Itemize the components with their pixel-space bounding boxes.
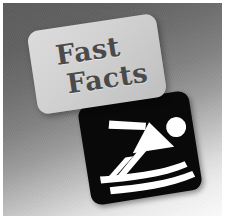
ski-pole-icon	[107, 115, 147, 136]
skiing-sign	[84, 98, 200, 204]
head-circle-icon	[165, 116, 188, 139]
fast-facts-graphic: Fast Facts	[0, 0, 225, 219]
sign-plate	[77, 90, 203, 206]
skier-pictogram-icon	[77, 90, 203, 206]
